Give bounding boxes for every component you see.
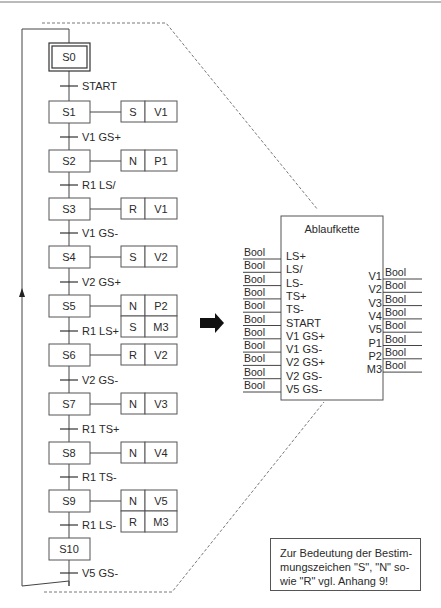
pin-type: Bool xyxy=(244,352,265,364)
pin-type: Bool xyxy=(244,299,265,311)
step-label: S1 xyxy=(62,106,75,118)
action-variable: V1 xyxy=(154,203,167,215)
action-variable: V5 xyxy=(154,495,167,507)
pin-type: Bool xyxy=(385,319,406,331)
diagram-canvas: S0S1SV1S2NP1S3RV1S4SV2S5NP2SM3S6RV2S7NV3… xyxy=(0,0,441,608)
action-block: RV2 xyxy=(121,344,177,365)
action-qualifier: R xyxy=(129,349,137,361)
pin-name: LS+ xyxy=(286,250,306,262)
action-qualifier: S xyxy=(129,251,136,263)
sfc-chart: S0S1SV1S2NP1S3RV1S4SV2S5NP2SM3S6RV2S7NV3… xyxy=(49,43,177,586)
sfc-step-s8: S8NV4 xyxy=(49,442,177,464)
pin-type: Bool xyxy=(385,293,406,305)
pin-name: M3 xyxy=(367,363,382,375)
pin-name: START xyxy=(286,317,321,329)
pin-name: V2 GS- xyxy=(286,370,322,382)
action-qualifier: N xyxy=(129,398,137,410)
sfc-transition: R1 LS- xyxy=(60,519,117,531)
pin-type: Bool xyxy=(244,259,265,271)
pin-name: TS- xyxy=(286,303,304,315)
sfc-step-s3: S3RV1 xyxy=(49,198,177,220)
pin-name: V5 xyxy=(369,323,382,335)
pin-name: V5 GS- xyxy=(286,383,322,395)
action-qualifier: N xyxy=(129,300,137,312)
pin-type: Bool xyxy=(244,246,265,258)
pin-name: V2 xyxy=(369,283,382,295)
loop-arrow-up-icon xyxy=(19,288,25,297)
pin-name: LS- xyxy=(286,277,303,289)
pin-type: Bool xyxy=(385,333,406,345)
action-qualifier: N xyxy=(129,495,137,507)
sfc-transition: R1 LS/ xyxy=(60,179,117,191)
action-block: RM3 xyxy=(121,511,177,532)
pin-type: Bool xyxy=(244,379,265,391)
sfc-step-s10: S10 xyxy=(49,538,90,560)
pin-type: Bool xyxy=(385,346,406,358)
pin-name: V4 xyxy=(369,310,382,322)
action-block: NV3 xyxy=(121,393,177,414)
action-qualifier: S xyxy=(129,321,136,333)
function-block-title: Ablaufkette xyxy=(304,223,359,235)
pin-name: TS+ xyxy=(286,290,306,302)
pin-type: Bool xyxy=(244,273,265,285)
transition-condition: V5 GS- xyxy=(82,567,118,579)
pin-type: Bool xyxy=(244,366,265,378)
sfc-step-s7: S7NV3 xyxy=(49,393,177,415)
action-qualifier: R xyxy=(129,516,137,528)
action-qualifier: N xyxy=(129,447,137,459)
note-line: wie "R" vgl. Anhang 9! xyxy=(280,574,420,588)
note-line: Zur Bedeutung der Bestim- xyxy=(280,546,420,560)
transition-condition: V2 GS- xyxy=(82,374,118,386)
transition-condition: R1 LS/ xyxy=(82,179,117,191)
action-qualifier: N xyxy=(129,155,137,167)
sfc-step-s0: S0 xyxy=(49,43,90,71)
pin-type: Bool xyxy=(385,279,406,291)
action-variable: P1 xyxy=(154,155,167,167)
step-label: S2 xyxy=(62,155,75,167)
step-label: S6 xyxy=(62,349,75,361)
action-variable: P2 xyxy=(154,300,167,312)
action-variable: M3 xyxy=(153,516,168,528)
transition-condition: V2 GS+ xyxy=(82,276,121,288)
action-block: NV4 xyxy=(121,442,177,463)
transition-condition: R1 LS- xyxy=(82,519,117,531)
step-label: S10 xyxy=(59,543,79,555)
pin-type: Bool xyxy=(385,359,406,371)
step-label: S0 xyxy=(62,51,75,63)
action-variable: V2 xyxy=(154,349,167,361)
transition-condition: R1 TS- xyxy=(82,471,117,483)
transition-condition: R1 LS+ xyxy=(82,325,119,337)
pin-type: Bool xyxy=(244,313,265,325)
pin-name: P1 xyxy=(369,337,382,349)
note-box: Zur Bedeutung der Bestim- mungszeichen "… xyxy=(270,538,421,591)
step-label: S3 xyxy=(62,203,75,215)
pin-type: Bool xyxy=(385,306,406,318)
step-label: S5 xyxy=(62,300,75,312)
action-variable: V1 xyxy=(154,106,167,118)
sfc-step-s4: S4SV2 xyxy=(49,246,177,268)
sfc-step-s6: S6RV2 xyxy=(49,344,177,366)
action-block: RV1 xyxy=(121,198,177,219)
sfc-step-s1: S1SV1 xyxy=(49,101,177,123)
action-variable: V2 xyxy=(154,251,167,263)
action-block: SV2 xyxy=(121,246,177,267)
action-variable: V3 xyxy=(154,398,167,410)
transition-condition: V1 GS- xyxy=(82,227,118,239)
step-label: S7 xyxy=(62,398,75,410)
transition-condition: START xyxy=(82,80,117,92)
action-block: SM3 xyxy=(121,316,177,337)
function-block-ablaufkette: AblaufketteBoolLS+BoolLS/BoolLS-BoolTS+B… xyxy=(243,216,422,400)
pin-type: Bool xyxy=(244,286,265,298)
action-variable: V4 xyxy=(154,447,167,459)
pin-name: V2 GS+ xyxy=(286,356,325,368)
pin-name: V3 xyxy=(369,297,382,309)
pin-name: V1 GS+ xyxy=(286,330,325,342)
step-label: S8 xyxy=(62,447,75,459)
action-qualifier: R xyxy=(129,203,137,215)
action-block: NV5 xyxy=(121,490,177,511)
step-label: S9 xyxy=(62,495,75,507)
action-block: NP1 xyxy=(121,150,177,171)
action-qualifier: S xyxy=(129,106,136,118)
pin-name: LS/ xyxy=(286,263,303,275)
pin-type: Bool xyxy=(244,326,265,338)
